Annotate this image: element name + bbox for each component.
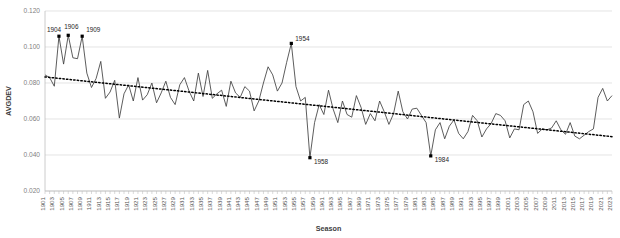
data-point-label: 1909 [86, 26, 101, 33]
x-axis-tick-label: 1965 [336, 196, 343, 210]
avgdev-season-line-chart: 0.0200.0400.0600.0800.1000.1201901190319… [0, 0, 620, 238]
x-axis-tick-label: 1933 [188, 196, 195, 210]
data-point-marker [81, 35, 84, 38]
x-axis-tick-label: 1911 [85, 196, 92, 210]
x-axis-tick-label: 2005 [522, 196, 529, 210]
y-axis-tick-label: 0.060 [23, 115, 40, 122]
x-axis-tick-label: 1991 [457, 196, 464, 210]
x-axis-tick-label: 2007 [532, 196, 539, 210]
x-axis-tick-label: 2009 [541, 196, 548, 210]
data-point-marker [57, 35, 60, 38]
x-axis-tick-label: 1923 [141, 196, 148, 210]
x-axis-tick-label: 1921 [132, 196, 139, 210]
x-axis-tick-label: 1969 [355, 196, 362, 210]
x-axis-tick-label: 2013 [560, 196, 567, 210]
x-axis-tick-label: 1959 [309, 196, 316, 210]
x-axis-tick-label: 2023 [606, 196, 613, 210]
x-axis-tick-label: 1929 [169, 196, 176, 210]
x-axis-tick-label: 1915 [104, 196, 111, 210]
data-series-line [45, 35, 612, 157]
x-axis-title: Season [316, 224, 342, 233]
x-axis-tick-label: 2019 [587, 196, 594, 210]
x-axis-tick-label: 1973 [374, 196, 381, 210]
y-axis-tick-label: 0.100 [23, 43, 40, 50]
x-axis-tick-label: 2001 [504, 196, 511, 210]
chart-container: 0.0200.0400.0600.0800.1000.1201901190319… [0, 0, 620, 238]
x-axis-tick-label: 1947 [253, 196, 260, 210]
x-axis-tick-label: 1975 [383, 196, 390, 210]
x-axis-tick-label: 1955 [290, 196, 297, 210]
y-axis-tick-label: 0.040 [23, 151, 40, 158]
x-axis-tick-label: 1995 [476, 196, 483, 210]
data-point-label: 1958 [314, 158, 329, 165]
x-axis-tick-label: 1943 [234, 196, 241, 210]
x-axis-tick-label: 1951 [271, 196, 278, 210]
data-point-label: 1984 [435, 156, 450, 163]
x-axis-tick-label: 2021 [597, 196, 604, 210]
x-axis-tick-label: 1901 [39, 196, 46, 210]
data-point-marker [290, 42, 293, 45]
y-axis-tick-label: 0.120 [23, 7, 40, 14]
x-axis-tick-label: 1981 [411, 196, 418, 210]
x-axis-tick-label: 1903 [48, 196, 55, 210]
x-axis-tick-label: 1957 [299, 196, 306, 210]
data-point-label: 1906 [64, 23, 79, 30]
x-axis-tick-label: 1937 [206, 196, 213, 210]
x-axis-tick-label: 1979 [402, 196, 409, 210]
x-axis-tick-label: 1953 [281, 196, 288, 210]
x-axis-tick-label: 1907 [67, 196, 74, 210]
x-axis-tick-label: 1983 [420, 196, 427, 210]
x-axis-tick-label: 1909 [76, 196, 83, 210]
y-axis-tick-label: 0.020 [23, 187, 40, 194]
x-axis-tick-label: 1927 [160, 196, 167, 210]
y-axis-title: AVGDEV [4, 86, 13, 116]
x-axis-tick-label: 2015 [569, 196, 576, 210]
x-axis-tick-label: 1925 [151, 196, 158, 210]
data-point-marker [67, 34, 70, 37]
x-axis-tick-label: 1935 [197, 196, 204, 210]
x-axis-tick-label: 1971 [364, 196, 371, 210]
x-axis-tick-label: 1917 [113, 196, 120, 210]
data-point-label: 1954 [295, 35, 310, 42]
data-point-label: 1904 [47, 26, 62, 33]
x-axis-tick-label: 1993 [467, 196, 474, 210]
x-axis-tick-label: 1997 [485, 196, 492, 210]
x-axis-tick-label: 1989 [448, 196, 455, 210]
x-axis-tick-label: 1941 [225, 196, 232, 210]
x-axis-tick-label: 1939 [216, 196, 223, 210]
x-axis-tick-label: 1905 [58, 196, 65, 210]
x-axis-tick-label: 1931 [178, 196, 185, 210]
x-axis-tick-label: 2011 [550, 196, 557, 210]
x-axis-tick-label: 1977 [392, 196, 399, 210]
x-axis-tick-label: 1987 [439, 196, 446, 210]
x-axis-tick-label: 1949 [262, 196, 269, 210]
data-point-marker [429, 154, 432, 157]
x-axis-tick-label: 1913 [95, 196, 102, 210]
x-axis-tick-label: 1967 [346, 196, 353, 210]
x-axis-tick-label: 1945 [243, 196, 250, 210]
x-axis-tick-label: 1999 [494, 196, 501, 210]
y-axis-tick-label: 0.080 [23, 79, 40, 86]
trendline [45, 77, 612, 137]
x-axis-tick-label: 2003 [513, 196, 520, 210]
x-axis-tick-label: 1961 [318, 196, 325, 210]
x-axis-tick-label: 1919 [123, 196, 130, 210]
data-point-marker [308, 156, 311, 159]
x-axis-tick-label: 2017 [578, 196, 585, 210]
x-axis-tick-label: 1963 [327, 196, 334, 210]
x-axis-tick-label: 1985 [429, 196, 436, 210]
